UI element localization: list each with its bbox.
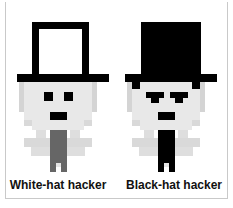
- black-hat-torso: [158, 130, 175, 163]
- black-hat-arm-right: [174, 147, 193, 156]
- white-hat-beard-center: [32, 120, 84, 130]
- black-hat-brim: [125, 74, 217, 82]
- black-hat-caption: Black-hat hacker: [116, 178, 232, 192]
- white-hat-beard-left-2: [36, 130, 46, 138]
- black-hat-shoulder-left: [132, 138, 158, 147]
- white-hat-face-side-right: [92, 82, 97, 112]
- black-hat-hacker-figure: Black-hat hacker: [116, 0, 232, 208]
- black-hat-crown: [141, 22, 201, 74]
- white-hat-shoulder-left: [24, 138, 50, 147]
- black-hat-beard-center: [140, 120, 192, 130]
- white-hat-caption: White-hat hacker: [0, 178, 116, 192]
- white-hat-leg-right: [61, 163, 67, 172]
- black-hat-beard-right-1: [192, 120, 200, 126]
- white-hat-arm-left: [31, 147, 50, 156]
- figures-container: White-hat hacker: [0, 0, 233, 208]
- white-hat-crown-fill: [39, 29, 82, 74]
- black-hat-arm-left: [139, 147, 158, 156]
- white-hat-crown-right: [82, 29, 89, 74]
- white-hat-face-side-left: [19, 82, 24, 112]
- white-hat-hacker-figure: White-hat hacker: [0, 0, 116, 208]
- black-hat-leg-right: [169, 163, 175, 172]
- white-hat-torso: [50, 130, 67, 163]
- black-hat-sideburn-left: [132, 82, 140, 89]
- black-hat-beard-left-2: [144, 130, 154, 138]
- white-hat-arm-right: [66, 147, 85, 156]
- black-hat-crotch-fill: [164, 163, 169, 167]
- white-hat-shoulder-right: [66, 138, 92, 147]
- black-hat-shoulder-right: [174, 138, 200, 147]
- white-hat-beard-left-1: [24, 120, 32, 126]
- black-hat-eye-left: [151, 98, 159, 103]
- black-hat-beard-right-2: [178, 130, 188, 138]
- white-hat-crown-left: [32, 29, 39, 74]
- white-hat-crotch-fill: [56, 163, 61, 167]
- white-hat-crown-top: [32, 22, 89, 29]
- black-hat-beard-left-1: [132, 120, 140, 126]
- white-hat-beard-right-2: [70, 130, 80, 138]
- white-hat-eye-right: [64, 92, 73, 101]
- black-hat-sideburn-right: [192, 82, 200, 89]
- black-hat-face-side-left: [127, 82, 132, 112]
- black-hat-face-side-right: [200, 82, 205, 112]
- black-hat-eye-right: [175, 98, 183, 103]
- white-hat-beard-right-1: [84, 120, 92, 126]
- illustration-frame: White-hat hacker: [0, 0, 233, 208]
- white-hat-eye-left: [44, 92, 53, 101]
- white-hat-brim: [17, 74, 109, 82]
